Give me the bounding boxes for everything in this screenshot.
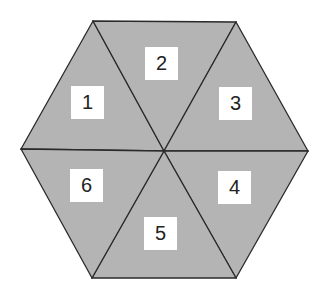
hexagon-diagram [0, 0, 331, 297]
segment-label-5: 5 [144, 217, 177, 250]
segment-label-1: 1 [71, 86, 104, 119]
segment-label-6: 6 [70, 169, 103, 202]
segment-label-3: 3 [219, 87, 252, 120]
segment-label-4: 4 [218, 171, 251, 204]
segment-label-2: 2 [145, 47, 178, 80]
